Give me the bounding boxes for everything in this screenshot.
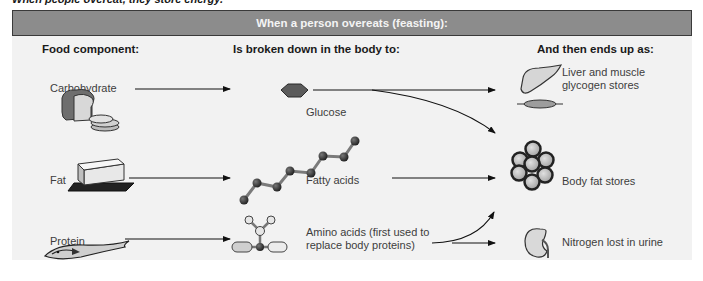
amino-acid-molecule-icon: [232, 216, 287, 252]
bread-icon: [62, 90, 119, 132]
figure-caption: When people overeat, they store energy.: [12, 0, 223, 5]
chain-molecule-icon: [244, 141, 355, 200]
arrow-amino-acids-to-body-fat: [432, 212, 494, 243]
diagram-panel: When a person overeats (feasting): Food …: [12, 10, 692, 260]
butter-icon: [68, 159, 134, 191]
arrow-glucose-to-body-fat: [372, 90, 495, 133]
kidney-icon: [525, 229, 548, 258]
hexagon-molecule-icon: [281, 84, 308, 97]
diagram-artwork: [12, 10, 692, 260]
fat-cells-icon: [512, 142, 554, 190]
liver-muscle-icon: [517, 65, 563, 108]
fish-icon: [45, 241, 129, 259]
